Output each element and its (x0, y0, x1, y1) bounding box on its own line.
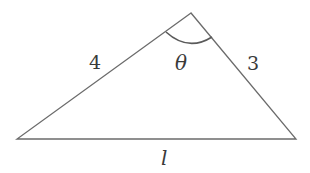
side-label-right: 3 (247, 52, 259, 74)
side-label-left: 4 (89, 51, 101, 73)
side-label-base: l (161, 146, 167, 170)
angle-label-theta: θ (175, 51, 187, 75)
triangle-diagram: 4 3 θ l (0, 0, 310, 173)
angle-arc (166, 32, 212, 43)
triangle-shape (17, 13, 296, 139)
